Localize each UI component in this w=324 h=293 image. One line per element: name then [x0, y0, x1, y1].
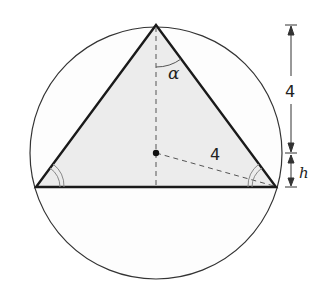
arrow-up-small-icon: [288, 155, 294, 163]
upper-dimension-label: 4: [285, 82, 295, 101]
diagram: α 4 4 h: [0, 0, 324, 293]
lower-dimension-label: h: [299, 164, 309, 182]
radius-label: 4: [210, 145, 220, 164]
arrow-down-small-icon: [288, 178, 294, 186]
center-point: [153, 150, 159, 156]
arrow-down-icon: [288, 143, 294, 152]
apex-angle-label: α: [168, 63, 180, 83]
arrow-up-icon: [288, 26, 294, 35]
dimension-line: [285, 25, 297, 187]
